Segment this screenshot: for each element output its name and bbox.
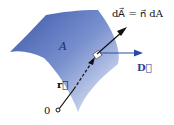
origin-label: 0 — [44, 106, 50, 116]
surface-label: A — [59, 41, 67, 52]
surface-patch — [10, 10, 119, 112]
field-vector-label: D⃗ — [137, 63, 152, 73]
area-vector-equation: dA⃗ = n⃗ dA — [112, 9, 163, 19]
position-vector-label: r⃗ — [57, 80, 68, 90]
position-vector-line — [59, 89, 74, 109]
field-vector-arrowhead — [134, 50, 143, 57]
origin-point — [56, 108, 60, 112]
